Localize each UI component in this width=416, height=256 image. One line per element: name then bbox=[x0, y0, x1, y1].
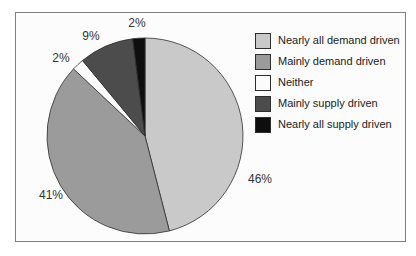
legend-swatch-icon bbox=[255, 75, 271, 91]
legend-swatch-icon bbox=[255, 96, 271, 112]
legend-item-2: Mainly demand driven bbox=[255, 54, 400, 69]
pie-data-label-1: 46% bbox=[248, 172, 272, 186]
pie-data-label-4: 9% bbox=[82, 29, 100, 43]
legend-swatch-icon bbox=[255, 54, 271, 70]
legend: Nearly all demand drivenMainly demand dr… bbox=[255, 33, 400, 132]
legend-item-5: Nearly all supply driven bbox=[255, 117, 400, 132]
legend-label: Mainly demand driven bbox=[271, 54, 386, 69]
legend-item-1: Nearly all demand driven bbox=[255, 33, 400, 48]
legend-item-4: Mainly supply driven bbox=[255, 96, 400, 111]
figure-page: 46%41%2%9%2% Nearly all demand drivenMai… bbox=[0, 0, 416, 256]
legend-swatch-icon bbox=[255, 117, 271, 133]
legend-label: Nearly all demand driven bbox=[271, 33, 400, 48]
legend-swatch-icon bbox=[255, 33, 271, 49]
legend-label: Nearly all supply driven bbox=[271, 117, 392, 132]
legend-label: Mainly supply driven bbox=[271, 96, 378, 111]
legend-item-3: Neither bbox=[255, 75, 400, 90]
legend-label: Neither bbox=[271, 75, 313, 90]
pie-data-label-5: 2% bbox=[128, 16, 146, 30]
pie-data-label-3: 2% bbox=[52, 51, 70, 65]
pie-data-label-2: 41% bbox=[39, 188, 63, 202]
